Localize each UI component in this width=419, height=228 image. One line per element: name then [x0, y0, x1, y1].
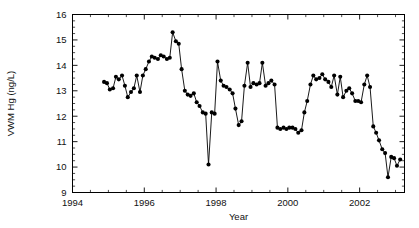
- chart-figure: 91011121314151619941996199820002002YearV…: [0, 0, 419, 228]
- y-tick-label: 13: [56, 85, 67, 96]
- data-point: [183, 89, 187, 93]
- data-point: [305, 99, 309, 103]
- x-tick-label: 1996: [134, 197, 155, 208]
- series-line-vwm-hg: [104, 32, 400, 177]
- data-point: [219, 79, 223, 83]
- data-point: [323, 77, 327, 81]
- data-point: [180, 67, 184, 71]
- data-point: [311, 73, 315, 77]
- data-point: [228, 87, 232, 91]
- data-point: [204, 112, 208, 116]
- data-point: [138, 90, 142, 94]
- y-axis-title: VWM Hg (ng/L): [5, 71, 16, 136]
- data-point: [392, 156, 396, 160]
- data-point: [347, 86, 351, 90]
- data-point: [362, 82, 366, 86]
- data-point: [374, 131, 378, 135]
- data-point: [231, 91, 235, 95]
- data-point: [144, 67, 148, 71]
- data-point: [132, 86, 136, 90]
- x-tick-label: 1994: [62, 197, 83, 208]
- data-point: [269, 79, 273, 83]
- data-point: [326, 80, 330, 84]
- data-point: [206, 162, 210, 166]
- data-point: [260, 61, 264, 65]
- data-point: [338, 75, 342, 79]
- data-point: [248, 85, 252, 89]
- data-point: [395, 164, 399, 168]
- line-chart: 91011121314151619941996199820002002YearV…: [0, 0, 419, 228]
- data-point: [156, 57, 160, 61]
- y-tick-label: 11: [57, 136, 67, 147]
- y-tick-label: 10: [56, 161, 67, 172]
- x-axis-title: Year: [229, 211, 248, 222]
- data-point: [341, 95, 345, 99]
- data-point: [386, 175, 390, 179]
- data-point: [168, 56, 172, 60]
- data-point: [296, 131, 300, 135]
- plot-frame: [73, 15, 405, 193]
- data-point: [246, 61, 250, 65]
- data-point: [350, 91, 354, 95]
- y-tick-label: 16: [56, 9, 67, 20]
- data-point: [162, 54, 166, 58]
- y-tick-label: 14: [56, 60, 67, 71]
- data-point: [126, 95, 130, 99]
- data-point: [147, 59, 151, 63]
- data-point: [320, 72, 324, 76]
- data-point: [213, 112, 217, 116]
- data-point: [120, 73, 124, 77]
- data-point: [368, 85, 372, 89]
- x-tick-label: 2002: [349, 197, 370, 208]
- data-point: [242, 84, 246, 88]
- data-point: [365, 73, 369, 77]
- data-point: [359, 100, 363, 104]
- data-point: [105, 81, 109, 85]
- data-point: [198, 104, 202, 108]
- data-point: [383, 151, 387, 155]
- data-point: [308, 82, 312, 86]
- data-point: [135, 73, 139, 77]
- data-point: [177, 42, 181, 46]
- data-point: [299, 128, 303, 132]
- data-point: [111, 86, 115, 90]
- data-point: [329, 85, 333, 89]
- data-point: [117, 77, 121, 81]
- data-point: [240, 119, 244, 123]
- y-tick-label: 15: [56, 34, 67, 45]
- data-point: [317, 76, 321, 80]
- data-point: [141, 73, 145, 77]
- data-point: [237, 123, 241, 127]
- data-point: [224, 85, 228, 89]
- data-point: [380, 147, 384, 151]
- data-point: [273, 82, 277, 86]
- data-point: [398, 157, 402, 161]
- data-point: [123, 84, 127, 88]
- data-point: [332, 73, 336, 77]
- data-point: [189, 94, 193, 98]
- data-point: [371, 124, 375, 128]
- data-point: [129, 90, 133, 94]
- data-point: [377, 138, 381, 142]
- data-point: [335, 93, 339, 97]
- data-point: [257, 81, 261, 85]
- data-point: [195, 100, 199, 104]
- data-point: [302, 110, 306, 114]
- data-point: [192, 91, 196, 95]
- data-point: [293, 127, 297, 131]
- data-point: [215, 59, 219, 63]
- y-tick-label: 12: [56, 111, 67, 122]
- data-point: [171, 30, 175, 34]
- x-tick-label: 2000: [277, 197, 298, 208]
- data-point: [233, 107, 237, 111]
- x-tick-label: 1998: [205, 197, 226, 208]
